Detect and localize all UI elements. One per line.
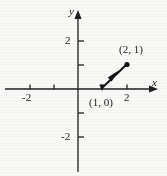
x-axis-label: x <box>152 77 157 88</box>
coordinate-plane <box>0 0 167 176</box>
point-label-1-0: (1, 0) <box>89 97 113 108</box>
vector-base-marker <box>99 85 104 92</box>
y-axis-label: y <box>69 6 74 17</box>
x-tick-label-plus2: 2 <box>124 92 130 103</box>
y-tick-label-minus2: -2 <box>61 131 70 142</box>
x-tick-label-minus2: -2 <box>22 92 31 103</box>
point-dot-2-1 <box>124 62 129 67</box>
y-axis-arrowhead <box>74 10 81 19</box>
point-label-2-1: (2, 1) <box>119 44 143 55</box>
vector-plot-figure: y x -2 2 2 -2 (2, 1) (1, 0) <box>0 0 167 176</box>
y-tick-label-plus2: 2 <box>65 35 71 46</box>
